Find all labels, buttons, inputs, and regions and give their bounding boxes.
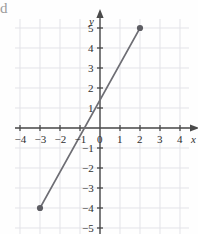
coordinate-plane-plot	[0, 0, 198, 234]
x-tick-label-4: 4	[177, 134, 183, 145]
y-tick-label-4: 4	[88, 43, 94, 54]
x-tick-label-0: 0	[97, 134, 103, 145]
x-tick-label-1: 1	[117, 134, 123, 145]
y-tick-label--1: −1	[82, 143, 94, 154]
x-tick-label-3: 3	[157, 134, 163, 145]
y-tick-label-1: 1	[88, 103, 94, 114]
x-tick-label--3: −3	[35, 134, 47, 145]
x-axis-name: x	[191, 134, 196, 145]
y-tick-label-3: 3	[88, 63, 94, 74]
y-tick-label--5: −5	[82, 223, 94, 234]
x-tick-label--2: −2	[55, 134, 67, 145]
x-tick-label--4: −4	[15, 134, 27, 145]
y-tick-label--3: −3	[82, 183, 94, 194]
y-tick-label--4: −4	[82, 203, 94, 214]
y-axis-name: y	[89, 16, 94, 27]
axis-lines	[15, 9, 198, 234]
grid-lines	[15, 19, 189, 234]
x-tick-label-2: 2	[137, 134, 143, 145]
y-tick-label-2: 2	[88, 83, 94, 94]
y-tick-label--2: −2	[82, 163, 94, 174]
data-series-group	[40, 28, 140, 208]
figure-canvas: d −4−3−2−101234−5−4−3−2−112345xy	[0, 0, 198, 234]
